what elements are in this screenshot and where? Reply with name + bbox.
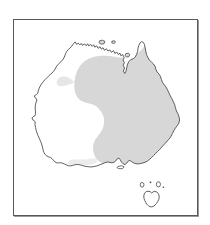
map-frame-border (13, 19, 198, 216)
tasmania-island (144, 191, 159, 207)
tasmania-group (144, 191, 159, 207)
flinders-island (156, 182, 160, 187)
king-island (140, 182, 144, 187)
kangaroo-island (117, 166, 124, 169)
bass-strait-islet (150, 181, 152, 183)
distribution-map-figure (0, 0, 210, 225)
australia-map-svg (14, 20, 197, 215)
bass-strait-islet-east (163, 186, 165, 188)
melville-island (99, 40, 105, 44)
bass-strait-islands-group (140, 181, 164, 188)
groote-eylandt (125, 53, 130, 57)
tiwi-island-north (112, 41, 116, 44)
kangaroo-island-group (117, 166, 124, 169)
